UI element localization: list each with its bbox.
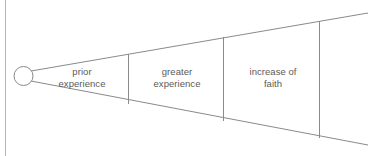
cone-diagram (0, 0, 371, 156)
cone-top-edge (31, 13, 368, 71)
diagram-canvas: prior experience greater experience incr… (0, 0, 371, 156)
cone-bottom-edge (31, 81, 368, 145)
apex-circle (14, 67, 33, 86)
